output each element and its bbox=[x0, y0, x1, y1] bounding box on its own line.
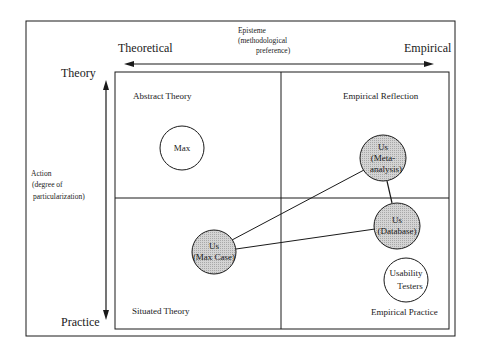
edge-maxcase-database bbox=[236, 229, 375, 249]
node-us-maxcase-label: Us (Max Case) bbox=[193, 241, 235, 263]
axis-top-end-theory: Theory bbox=[61, 67, 96, 79]
node-usability-testers-label: Usability Testers bbox=[389, 267, 422, 293]
action-title: Action bbox=[31, 170, 51, 178]
quadrant-situated-theory: Situated Theory bbox=[132, 307, 190, 316]
node-us-meta-line3: analysis) bbox=[364, 164, 402, 175]
node-usability-line1: Usability bbox=[389, 267, 422, 280]
axis-right-end-empirical: Empirical bbox=[404, 42, 451, 54]
node-us-database-line2: (Database) bbox=[378, 226, 417, 237]
episteme-subtitle-2: preference) bbox=[256, 47, 290, 55]
quadrant-abstract-theory: Abstract Theory bbox=[133, 92, 192, 101]
axis-bottom-end-practice: Practice bbox=[61, 316, 100, 328]
node-us-database-label: Us (Database) bbox=[378, 215, 417, 237]
edge-maxcase-meta bbox=[232, 170, 364, 240]
episteme-subtitle-1: (methodological bbox=[238, 37, 287, 45]
node-us-database-line1: Us bbox=[378, 215, 417, 226]
quadrant-empirical-practice: Empirical Practice bbox=[371, 308, 438, 317]
action-arrow-icon bbox=[103, 80, 109, 320]
episteme-title: Episteme bbox=[238, 27, 266, 35]
node-usability-line2: Testers bbox=[389, 280, 422, 293]
edge-meta-database bbox=[387, 181, 392, 203]
node-us-maxcase-line1: Us bbox=[193, 241, 235, 252]
node-us-meta-label: Us (Meta- analysis) bbox=[364, 142, 402, 175]
node-us-meta-line1: Us bbox=[364, 142, 402, 153]
episteme-arrow-icon bbox=[124, 61, 434, 67]
action-subtitle-1: (degree of bbox=[32, 181, 63, 189]
node-us-meta-line2: (Meta- bbox=[364, 153, 402, 164]
action-subtitle-2: particularization) bbox=[33, 193, 85, 201]
node-max-line1: Max bbox=[174, 143, 191, 154]
quadrant-empirical-reflection: Empirical Reflection bbox=[343, 92, 418, 101]
node-us-maxcase-line2: (Max Case) bbox=[193, 252, 235, 263]
node-max-label: Max bbox=[174, 143, 191, 154]
axis-left-end-theoretical: Theoretical bbox=[118, 42, 173, 54]
